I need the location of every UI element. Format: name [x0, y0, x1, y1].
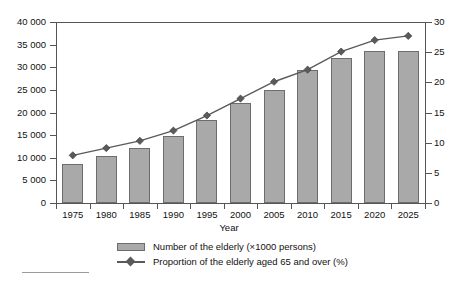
left-tick-label: 25 000 — [0, 85, 46, 95]
line-marker — [203, 112, 210, 119]
line-marker — [237, 95, 244, 102]
x-tick — [90, 204, 91, 209]
footer-rule — [22, 272, 89, 273]
plot-area — [56, 22, 425, 203]
right-tick-label: 10 — [434, 138, 445, 148]
x-tick — [224, 204, 225, 209]
line-marker — [405, 32, 412, 39]
x-tick — [425, 204, 426, 209]
x-axis-line — [56, 203, 426, 204]
x-tick — [291, 204, 292, 209]
right-tick-label: 20 — [434, 77, 445, 87]
x-tick-label: 2025 — [388, 210, 428, 220]
left-tick-label: 0 — [0, 198, 46, 208]
left-tick-label: 10 000 — [0, 153, 46, 163]
bar — [129, 148, 150, 203]
bar — [96, 156, 117, 204]
right-tick — [426, 22, 432, 23]
x-tick — [358, 204, 359, 209]
bar — [62, 164, 83, 203]
right-tick-label: 30 — [434, 17, 445, 27]
left-tick-label: 5 000 — [0, 175, 46, 185]
x-tick — [391, 204, 392, 209]
x-tick — [324, 204, 325, 209]
right-tick-label: 0 — [434, 198, 439, 208]
x-tick — [56, 204, 57, 209]
bar — [364, 51, 385, 203]
line-marker — [338, 48, 345, 55]
legend-item-line: Proportion of the elderly aged 65 and ov… — [117, 255, 417, 268]
right-tick — [426, 143, 432, 144]
bar — [297, 70, 318, 203]
right-tick-label: 25 — [434, 47, 445, 57]
right-tick — [426, 82, 432, 83]
line-marker — [170, 127, 177, 134]
legend-bar-swatch-icon — [117, 243, 145, 251]
legend: Number of the elderly (×1000 persons) Pr… — [117, 240, 417, 270]
left-tick-label: 40 000 — [0, 17, 46, 27]
left-tick-label: 15 000 — [0, 130, 46, 140]
right-tick-label: 15 — [434, 108, 445, 118]
bar — [331, 58, 352, 203]
bar — [398, 51, 419, 203]
line-marker — [136, 137, 143, 144]
right-tick — [426, 173, 432, 174]
line-marker — [371, 37, 378, 44]
x-tick — [257, 204, 258, 209]
right-tick — [426, 52, 432, 53]
line-marker — [103, 144, 110, 151]
x-tick — [123, 204, 124, 209]
bar — [163, 136, 184, 203]
bar — [264, 90, 285, 203]
left-tick-label: 35 000 — [0, 40, 46, 50]
line-marker — [69, 152, 76, 159]
left-tick-label: 20 000 — [0, 108, 46, 118]
legend-line-diamond-icon — [117, 257, 145, 266]
right-tick — [426, 113, 432, 114]
legend-label-line: Proportion of the elderly aged 65 and ov… — [153, 256, 348, 267]
x-tick — [157, 204, 158, 209]
right-tick-label: 5 — [434, 168, 439, 178]
left-tick-label: 30 000 — [0, 62, 46, 72]
x-tick — [190, 204, 191, 209]
bar — [230, 103, 251, 203]
legend-label-bars: Number of the elderly (×1000 persons) — [153, 241, 316, 252]
chart-container: 05 00010 00015 00020 00025 00030 00035 0… — [0, 0, 458, 285]
legend-item-bars: Number of the elderly (×1000 persons) — [117, 240, 417, 253]
bar — [196, 120, 217, 203]
right-tick — [426, 203, 432, 204]
line-marker — [270, 78, 277, 85]
x-axis-title: Year — [0, 222, 458, 233]
